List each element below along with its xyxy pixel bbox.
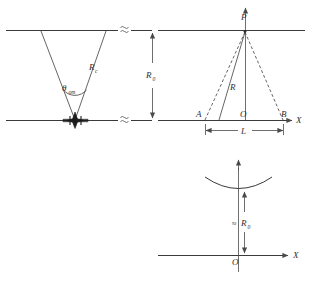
figure-root: θ om R c <box>0 0 311 283</box>
cone-radius-label-base: R <box>88 62 95 72</box>
break-symbol-lower-icon <box>121 117 129 123</box>
cone-radius-label: R c <box>88 62 98 74</box>
point-b-label: B <box>281 109 287 119</box>
origin-label: O <box>240 109 247 119</box>
cone-radius-label-subscript: c <box>95 68 98 74</box>
figure-svg: θ om R c <box>0 0 311 283</box>
cone-geometry-panel: θ om R c <box>6 27 152 129</box>
r0-dimension-label-subscript: 0 <box>153 76 156 82</box>
point-a-label: A <box>195 109 202 119</box>
curved-front-panel: X O ≈ R 0 <box>158 160 299 272</box>
height-approx-symbol: ≈ <box>232 219 237 228</box>
cone-angle-label-base: θ <box>62 83 67 93</box>
cone-left-edge <box>41 31 75 120</box>
baseline-length-label: L <box>240 126 246 136</box>
cone-right-edge <box>75 31 106 120</box>
apex-label: P <box>240 12 247 22</box>
triangulation-panel: P A O B X R L R 0 <box>145 8 305 136</box>
slant-range-line <box>219 32 245 120</box>
aircraft-burst-marker-icon <box>63 112 88 129</box>
slant-range-label: R <box>229 82 236 92</box>
break-symbol-upper-icon <box>121 27 129 33</box>
apex-point-marker <box>244 30 247 33</box>
x-axis-label: X <box>295 115 302 125</box>
bottom-x-axis-label: X <box>292 250 299 260</box>
r0-dimension-label-base: R <box>145 70 152 80</box>
r0-dimension-label: R 0 <box>145 70 156 82</box>
sight-line-to-a <box>205 32 245 120</box>
height-label-base: R <box>240 218 247 228</box>
bottom-origin-label: O <box>232 257 239 267</box>
height-label-subscript: 0 <box>248 224 251 230</box>
height-dimension-label: ≈ R 0 <box>232 218 251 230</box>
sight-line-to-b <box>245 32 283 120</box>
cone-angle-label-subscript: om <box>69 89 76 95</box>
cone-angle-label: θ om <box>62 83 75 95</box>
